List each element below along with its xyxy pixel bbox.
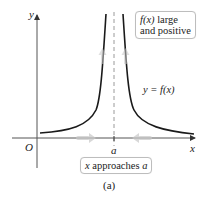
figure-caption: (a): [103, 180, 115, 191]
large-positive-annotation: f(x) large and positive: [135, 11, 196, 39]
left-arrow-toward-a: [132, 133, 152, 143]
and-positive-text: and positive: [140, 25, 191, 36]
right-arrow-toward-a: [76, 133, 96, 143]
curve-left-branch: [40, 14, 106, 133]
x-axis-label: x: [190, 143, 195, 154]
origin-label: O: [25, 142, 33, 153]
x-approaches-a-annotation: x approaches a: [80, 157, 152, 174]
up-arrow-left: [99, 48, 107, 64]
fx-text: f(x): [140, 14, 155, 25]
large-text: large: [155, 14, 178, 25]
y-axis-label: y: [29, 9, 34, 20]
a-var-text: a: [142, 160, 147, 171]
asymptote-a-label: a: [111, 145, 117, 156]
approaches-text: approaches: [90, 160, 142, 171]
vertical-asymptote-figure: y x O a y = f(x) f(x) large and positive…: [0, 0, 207, 204]
curve-label: y = f(x): [143, 85, 175, 96]
up-arrow-right: [122, 48, 130, 64]
